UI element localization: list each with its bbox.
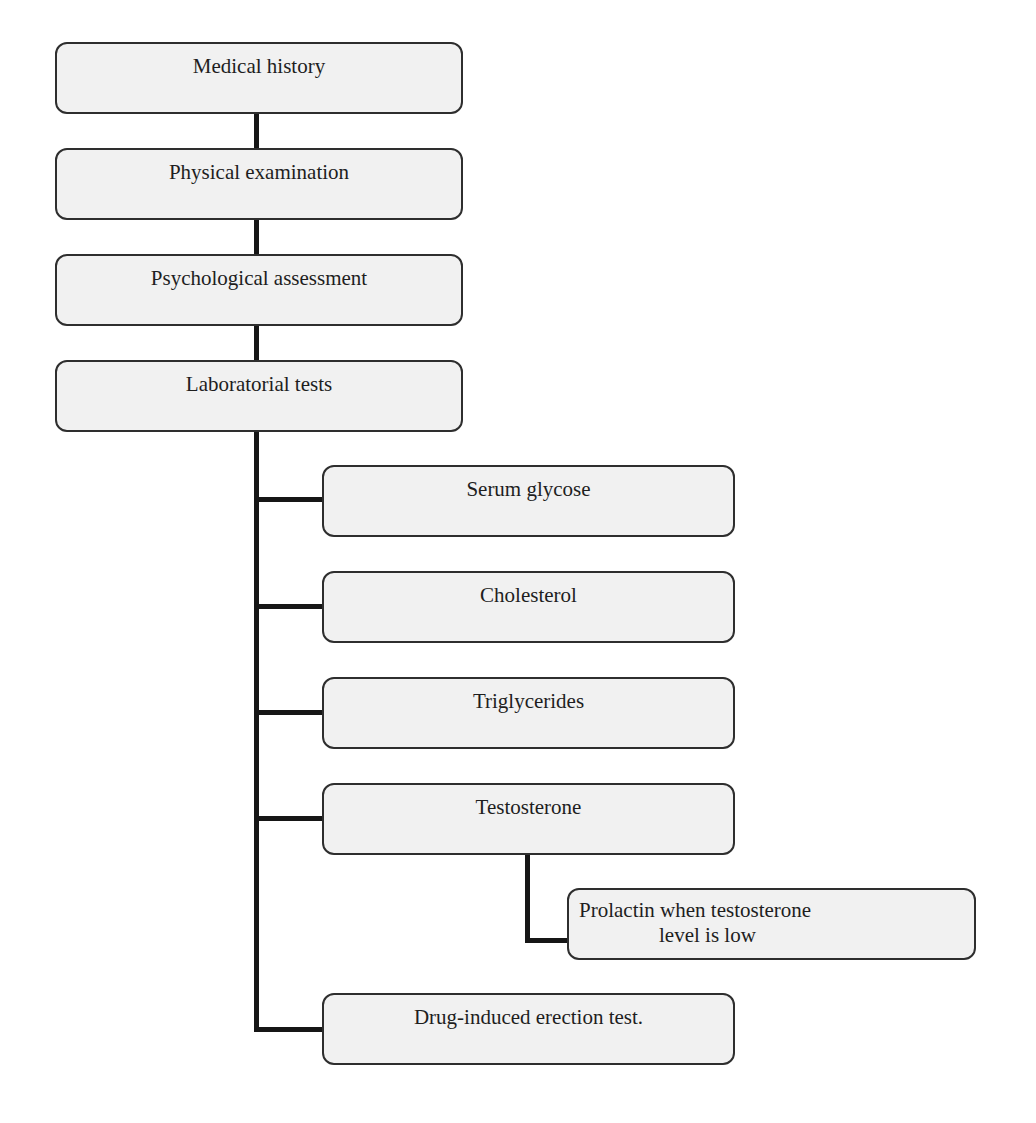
lab-test-label: Testosterone xyxy=(324,795,733,820)
connector-history-physical xyxy=(254,112,259,149)
step-physical-examination: Physical examination xyxy=(55,148,463,220)
flowchart-canvas: Medical history Physical examination Psy… xyxy=(0,0,1036,1123)
lab-test-drug-induced-erection: Drug-induced erection test. xyxy=(322,993,735,1065)
lab-test-serum-glycose: Serum glycose xyxy=(322,465,735,537)
connector-branch-cholesterol xyxy=(254,604,324,609)
connector-branch-serum-glycose xyxy=(254,497,324,502)
step-label: Psychological assessment xyxy=(57,266,461,291)
prolactin-line-1: Prolactin when testosterone xyxy=(579,898,974,923)
step-laboratorial-tests: Laboratorial tests xyxy=(55,360,463,432)
lab-test-label: Drug-induced erection test. xyxy=(324,1005,733,1030)
conditional-prolactin: Prolactin when testosterone level is low xyxy=(567,888,976,960)
connector-branch-testosterone xyxy=(254,816,324,821)
connector-testosterone-prolactin-horizontal xyxy=(525,938,569,943)
lab-test-cholesterol: Cholesterol xyxy=(322,571,735,643)
connector-testosterone-prolactin-vertical xyxy=(525,852,530,943)
prolactin-line-2: level is low xyxy=(579,923,974,948)
lab-test-label: Serum glycose xyxy=(324,477,733,502)
connector-branch-triglycerides xyxy=(254,710,324,715)
connector-physical-psychological xyxy=(254,218,259,255)
step-label: Medical history xyxy=(57,54,461,79)
lab-test-label: Triglycerides xyxy=(324,689,733,714)
step-psychological-assessment: Psychological assessment xyxy=(55,254,463,326)
connector-lab-trunk xyxy=(254,429,259,1032)
connector-psychological-lab xyxy=(254,324,259,361)
step-label: Physical examination xyxy=(57,160,461,185)
connector-branch-drug-test xyxy=(254,1027,324,1032)
step-medical-history: Medical history xyxy=(55,42,463,114)
lab-test-testosterone: Testosterone xyxy=(322,783,735,855)
lab-test-label: Cholesterol xyxy=(324,583,733,608)
step-label: Laboratorial tests xyxy=(57,372,461,397)
lab-test-triglycerides: Triglycerides xyxy=(322,677,735,749)
